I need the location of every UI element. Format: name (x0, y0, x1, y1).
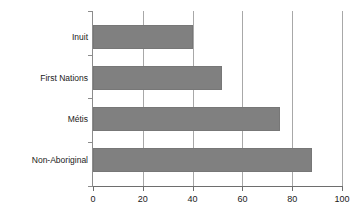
gridline-100 (342, 11, 343, 186)
x-tick-label-80: 80 (277, 194, 307, 205)
x-axis-line (93, 186, 343, 187)
x-tick-100 (342, 186, 343, 191)
x-tick-label-40: 40 (178, 194, 208, 205)
bar-first-nations (93, 66, 222, 90)
x-tick-80 (292, 186, 293, 191)
bar-inuit (93, 25, 193, 49)
bar-metis (93, 107, 280, 131)
x-tick-label-0: 0 (78, 194, 108, 205)
x-tick-40 (193, 186, 194, 191)
category-label-inuit: Inuit (2, 32, 88, 42)
category-label-first-nations: First Nations (2, 73, 88, 83)
y-tick-0 (88, 11, 93, 12)
x-tick-20 (143, 186, 144, 191)
plot-area (93, 11, 342, 186)
bar-non-aboriginal (93, 148, 312, 172)
y-tick-1 (88, 55, 93, 56)
y-tick-2 (88, 98, 93, 99)
category-labels: Inuit First Nations Métis Non-Aboriginal (0, 0, 88, 216)
category-label-non-aboriginal: Non-Aboriginal (2, 155, 88, 165)
y-tick-3 (88, 142, 93, 143)
bar-chart: Inuit First Nations Métis Non-Aboriginal… (0, 0, 363, 216)
category-label-metis: Métis (2, 114, 88, 124)
x-tick-60 (242, 186, 243, 191)
x-tick-label-100: 100 (327, 194, 357, 205)
x-tick-label-20: 20 (128, 194, 158, 205)
x-tick-0 (93, 186, 94, 191)
x-tick-label-60: 60 (227, 194, 257, 205)
